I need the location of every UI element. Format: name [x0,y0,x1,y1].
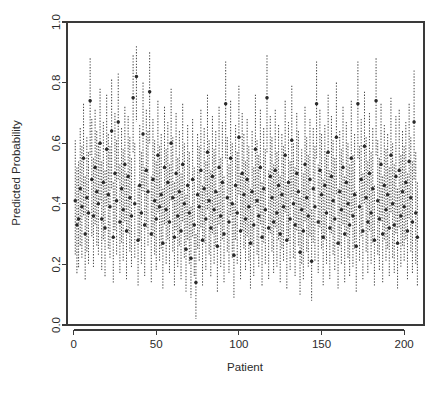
data-point [163,166,167,170]
data-point [257,214,261,218]
data-point [285,238,289,242]
data-point [250,190,254,194]
x-axis-tick-label: 150 [312,338,331,350]
data-point [226,196,230,200]
data-point [351,214,355,218]
data-point [310,260,314,264]
data-point [179,229,183,233]
data-point [138,184,142,188]
data-point [173,235,177,239]
x-axis-tick-label: 50 [150,338,163,350]
data-point [103,226,107,230]
data-point [184,248,188,252]
data-point [75,223,79,227]
data-point [340,208,344,212]
data-point [244,217,248,221]
data-point [345,181,349,185]
data-point [318,169,322,173]
data-point [262,187,266,191]
x-axis-tick-label: 0 [70,338,76,350]
data-point [386,193,390,197]
data-point [83,232,87,236]
data-point [369,211,373,215]
data-point [199,169,203,173]
data-point [174,172,178,176]
data-point [259,166,263,170]
data-point [125,229,129,233]
data-point [95,190,99,194]
data-point [140,211,144,215]
data-point [189,257,193,261]
data-point [141,132,145,136]
data-point [183,202,187,206]
data-point [196,193,200,197]
data-point [267,226,271,230]
data-point [341,166,345,170]
data-point [315,102,319,106]
data-point [80,205,84,209]
data-point [416,235,420,239]
data-point [242,193,246,197]
data-point [298,251,302,255]
data-point [295,172,299,176]
data-point [202,187,206,191]
data-point [126,175,130,179]
data-point [287,181,291,185]
data-point [87,211,91,215]
data-point [407,160,411,164]
data-point [312,187,316,191]
data-point [326,151,330,155]
data-point [389,154,393,158]
data-point [227,220,231,224]
data-point [323,184,327,188]
data-point [330,175,334,179]
data-point [143,223,147,227]
data-point [133,202,137,206]
data-point [145,169,149,173]
data-point [399,214,403,218]
data-point [229,157,233,161]
data-point [353,193,357,197]
data-point [290,138,294,142]
data-point [343,232,347,236]
data-point [404,181,408,185]
data-point [146,190,150,194]
data-point [288,217,292,221]
data-point [153,199,157,203]
data-point [378,217,382,221]
data-point [237,135,241,139]
data-point [211,175,215,179]
data-point [78,187,82,191]
data-point [278,232,282,236]
data-point [201,238,205,242]
data-point [113,172,117,176]
data-point [222,232,226,236]
data-point [384,208,388,212]
data-point [293,223,297,227]
data-point [346,202,350,206]
data-point [275,211,279,215]
scatter-plot-canvas: 0.00.20.40.60.81.0 050100150200 Patient … [0,0,446,394]
data-point [82,157,86,161]
data-point [366,220,370,224]
data-point [97,202,101,206]
data-point [209,226,213,230]
data-point [217,166,221,170]
data-point [359,178,363,182]
data-point [320,193,324,197]
data-point [383,184,387,188]
data-point [181,163,185,167]
data-point [178,190,182,194]
data-point [171,196,175,200]
data-point [232,254,236,258]
data-point [245,178,249,182]
data-point [356,102,360,106]
data-point [302,229,306,233]
data-point [363,144,367,148]
data-point [249,241,253,245]
data-point [92,214,96,218]
data-point [350,157,354,161]
data-point [333,217,337,221]
data-point [166,181,170,185]
data-point [394,175,398,179]
